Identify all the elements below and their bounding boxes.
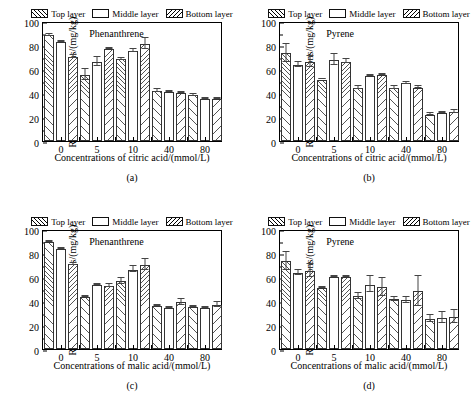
bar-wrapper — [151, 23, 163, 141]
bar-bottom-layer — [377, 287, 387, 349]
error-bar — [49, 33, 50, 37]
error-bar — [394, 85, 395, 89]
bar-top-layer — [80, 75, 90, 141]
error-bar — [286, 43, 287, 62]
x-axis-label-c: Concentrations of malic acid/(mmol/L) — [54, 360, 211, 371]
bar-middle-layer — [329, 60, 339, 141]
bar-bottom-layer — [212, 99, 222, 141]
bar-top-layer — [188, 95, 198, 141]
bar-bottom-layer — [377, 75, 387, 141]
bar-wrapper — [280, 231, 292, 349]
error-bar — [216, 301, 217, 307]
bar-wrapper — [304, 231, 316, 349]
legend-label: Bottom layer — [186, 217, 233, 227]
error-bar — [193, 93, 194, 95]
bar-wrapper — [448, 23, 460, 141]
error-bar — [144, 37, 145, 49]
bar-top-layer — [152, 91, 162, 141]
panel-label-b: (b) — [363, 172, 375, 183]
legend-swatch-bot — [166, 217, 183, 226]
y-tick-label: 40 — [266, 298, 280, 309]
legend-label: Middle layer — [349, 217, 395, 227]
y-tick-label: 20 — [29, 114, 43, 125]
chart-panel-c: Top layerMiddle layerBottom layerPhenant… — [0, 208, 236, 415]
x-tick-mark-boundary — [388, 345, 389, 349]
x-tick-mark-boundary — [352, 345, 353, 349]
x-tick-mark-boundary — [316, 345, 317, 349]
error-bar — [417, 85, 418, 87]
error-bar — [333, 53, 334, 65]
error-bar — [405, 81, 406, 83]
x-tick-mark-boundary — [115, 345, 116, 349]
bar-bottom-layer — [176, 93, 186, 141]
error-bar — [309, 263, 310, 277]
bar-group — [115, 23, 151, 141]
y-tick-label: 80 — [29, 42, 43, 53]
y-tick-label: 100 — [24, 226, 43, 237]
bar-group — [187, 231, 223, 349]
bar-wrapper — [91, 231, 103, 349]
x-tick-mark-boundary — [187, 345, 188, 349]
error-bar — [286, 251, 287, 270]
y-tick-mark — [280, 143, 284, 144]
bar-bottom-layer — [140, 44, 150, 141]
x-tick-mark-boundary — [79, 345, 80, 349]
bar-middle-layer — [293, 65, 303, 141]
error-bar — [204, 306, 205, 308]
bar-wrapper — [340, 231, 352, 349]
chart-panel-b: Top layerMiddle layerBottom layerPyreneR… — [237, 0, 473, 207]
x-tick-mark-boundary — [151, 345, 152, 349]
legend-swatch-mid — [329, 217, 346, 226]
plot-area-d: PyreneResidual concentrations/(mg/kg)020… — [279, 230, 459, 350]
error-bar — [297, 269, 298, 275]
bar-group — [388, 231, 424, 349]
legend-item-bottom-layer: Bottom layer — [403, 217, 470, 227]
plot-area-a: PhenanthreneResidual concentrations/(mg/… — [42, 22, 222, 142]
y-tick-label: 0 — [271, 346, 280, 357]
chart-legend-b: Top layerMiddle layerBottom layer — [267, 7, 471, 20]
error-bar — [369, 275, 370, 292]
chart-panel-a: Top layerMiddle layerBottom layerPhenant… — [0, 0, 236, 207]
bar-middle-layer — [56, 249, 66, 349]
bar-wrapper — [43, 231, 55, 349]
x-axis-label-b: Concentrations of citric acid/(mmol/L) — [291, 152, 446, 163]
bar-wrapper — [79, 23, 91, 141]
bar-wrapper — [316, 23, 328, 141]
bar-top-layer — [425, 115, 435, 141]
bar-wrapper — [436, 23, 448, 141]
bar-wrapper — [199, 231, 211, 349]
bar-wrapper — [103, 23, 115, 141]
y-tick-label: 60 — [266, 274, 280, 285]
bar-wrapper — [328, 23, 340, 141]
bar-wrapper — [163, 231, 175, 349]
error-bar — [345, 275, 346, 276]
x-tick-mark-boundary — [187, 137, 188, 141]
bar-group — [352, 23, 388, 141]
bar-group — [79, 23, 115, 141]
error-bar — [322, 78, 323, 79]
bar-middle-layer — [92, 285, 102, 349]
plot-area-c: PhenanthreneResidual concentrations/(mg/… — [42, 230, 222, 350]
bar-top-layer — [317, 80, 327, 141]
bar-wrapper — [163, 23, 175, 141]
panel-label-c: (c) — [126, 380, 137, 391]
x-axis-label-a: Concentrations of citric acid/(mmol/L) — [54, 152, 209, 163]
bar-wrapper — [91, 23, 103, 141]
bar-bottom-layer — [104, 49, 114, 141]
bar-top-layer — [353, 296, 363, 349]
error-bar — [381, 277, 382, 296]
bar-middle-layer — [293, 273, 303, 349]
bar-middle-layer — [200, 308, 210, 349]
error-bar — [121, 57, 122, 59]
y-tick-label: 80 — [266, 250, 280, 261]
bar-wrapper — [388, 231, 400, 349]
y-tick-label: 0 — [34, 346, 43, 357]
bar-wrapper — [67, 23, 79, 141]
bar-middle-layer — [164, 92, 174, 141]
error-bar — [96, 283, 97, 285]
error-bar — [60, 40, 61, 42]
y-tick-label: 0 — [271, 138, 280, 149]
bar-wrapper — [340, 23, 352, 141]
bar-group — [424, 23, 460, 141]
bar-wrapper — [316, 231, 328, 349]
